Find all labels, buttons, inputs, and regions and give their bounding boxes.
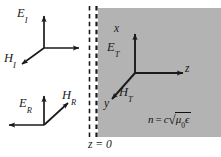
boundary-position-label: z = 0	[88, 139, 112, 151]
transmitted-H-label: HT	[119, 86, 133, 101]
transmitted-y-axis-label: y	[104, 98, 109, 110]
incident-wave-vectors	[22, 16, 79, 64]
formula-equals: =	[156, 113, 162, 125]
formula-mu-subscript: 0	[181, 121, 185, 130]
reflected-wave-vectors	[9, 96, 68, 125]
incident-E-label: EI	[17, 7, 27, 22]
figure-canvas: EI HI ER HR x z y ET HT z = 0 n=c√μ0ϵ	[0, 0, 221, 157]
incident-H-label: HI	[4, 52, 16, 67]
formula-epsilon: ϵ	[185, 113, 189, 125]
reflected-H-label: HR	[62, 89, 76, 104]
transmitted-z-axis-label: z	[185, 63, 189, 75]
formula-n: n	[148, 113, 154, 125]
reflected-H-vector-arrow	[44, 103, 68, 125]
refractive-index-formula: n=c√μ0ϵ	[148, 112, 191, 128]
formula-radicand: μ0ϵ	[175, 112, 192, 128]
incident-H-vector-arrow	[22, 48, 44, 64]
reflected-E-label: ER	[19, 97, 32, 112]
transmitted-x-axis-label: x	[114, 23, 119, 35]
transmitted-E-label: ET	[107, 41, 119, 56]
diagram-vector-graphics	[0, 0, 221, 157]
